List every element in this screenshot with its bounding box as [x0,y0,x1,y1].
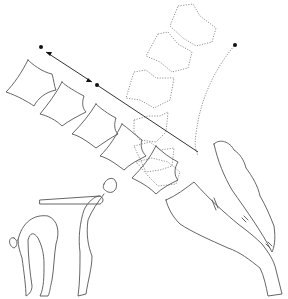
point-upper-left [39,45,43,49]
point-middle [95,83,99,87]
spine-flexion-diagram [0,0,288,299]
forward-bend-figure [10,216,58,296]
sacrum-pelvis [166,141,282,296]
standing-flexion-figure [40,178,117,296]
flexed-vertebrae [6,60,178,194]
measurement-lines [39,43,237,152]
point-upper-right [233,43,237,47]
